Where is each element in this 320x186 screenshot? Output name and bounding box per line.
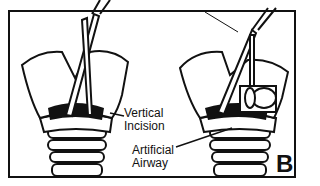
left-larynx [22,0,128,176]
artificial-airway-label: Artificial Airway [132,144,174,170]
label-line: Incision [124,120,165,133]
right-larynx [180,8,288,176]
label-line: Airway [132,157,174,170]
panel-letter: B [276,150,293,178]
vertical-incision-label: Vertical Incision [124,107,165,133]
artificial-airway-device [240,86,276,112]
